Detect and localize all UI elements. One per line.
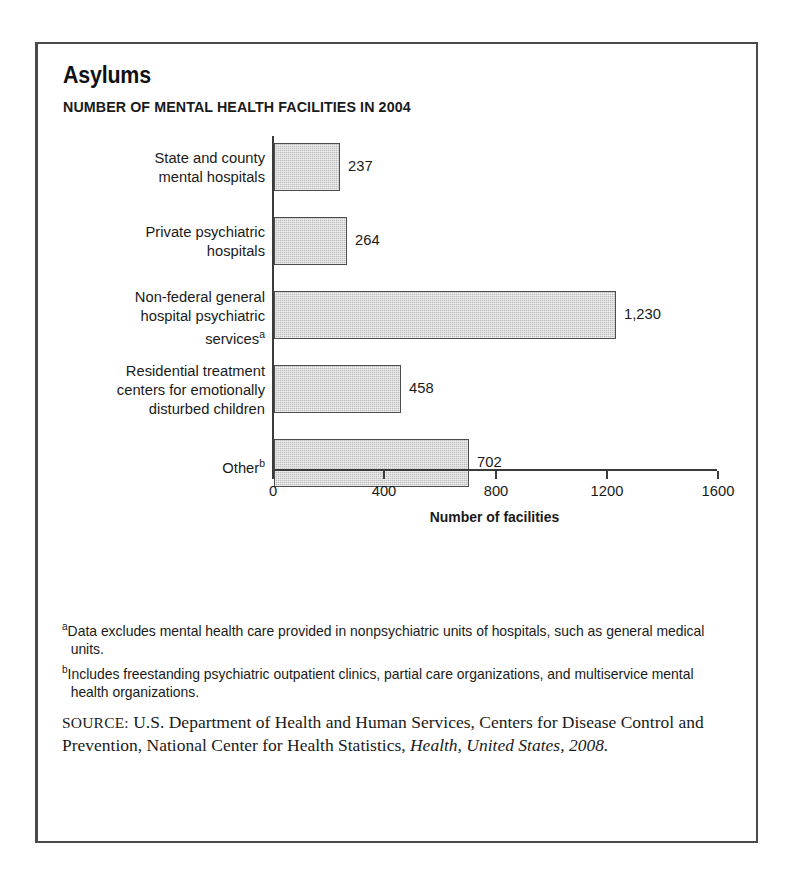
page-title: Asylums <box>63 62 687 89</box>
category-label: Non-federal generalhospital psychiatrics… <box>70 287 265 348</box>
x-axis-tick <box>606 471 608 479</box>
chart-plot: State and countymental hospitalsPrivate … <box>60 136 734 498</box>
x-axis-tick <box>717 471 719 479</box>
footnote-marker: a <box>259 328 265 340</box>
x-axis-tick <box>383 471 385 479</box>
source-note: SOURCE: U.S. Department of Health and Hu… <box>62 711 712 756</box>
x-axis-tick <box>495 471 497 479</box>
chart-subtitle: NUMBER OF MENTAL HEALTH FACILITIES IN 20… <box>63 98 680 116</box>
category-label: Residential treatmentcenters for emotion… <box>70 361 265 418</box>
x-axis-title: Number of facilities <box>288 508 702 525</box>
footnote-text: Includes freestanding psychiatric outpat… <box>68 666 694 701</box>
bar-value-label: 458 <box>409 379 434 397</box>
footnotes: aData excludes mental health care provid… <box>62 617 734 703</box>
category-label: State and countymental hospitals <box>70 148 265 186</box>
footnote: aData excludes mental health care provid… <box>62 617 707 659</box>
figure-content: Asylums NUMBER OF MENTAL HEALTH FACILITI… <box>38 44 756 841</box>
figure-frame: Asylums NUMBER OF MENTAL HEALTH FACILITI… <box>35 42 758 843</box>
x-axis-tick-label: 1600 <box>702 482 735 500</box>
category-axis-labels: State and countymental hospitalsPrivate … <box>60 136 265 498</box>
footnote-marker: b <box>259 457 265 469</box>
source-publication: Health, United States, 2008. <box>410 735 608 755</box>
source-label: SOURCE: <box>62 714 129 731</box>
x-axis-tick-label: 400 <box>372 482 397 500</box>
category-label: Private psychiatrichospitals <box>70 222 265 260</box>
footnote: bIncludes freestanding psychiatric outpa… <box>62 660 707 702</box>
bar <box>274 291 616 339</box>
x-axis-tick-label: 800 <box>483 482 508 500</box>
footnote-text: Data excludes mental health care provide… <box>68 623 705 658</box>
x-axis-tick-label: 0 <box>269 482 277 500</box>
bar <box>274 365 401 413</box>
bar-plot-area: 2372641,230458702 040080012001600 Number… <box>272 136 727 498</box>
x-axis-tick-label: 1200 <box>590 482 623 500</box>
bar-value-label: 264 <box>355 231 380 249</box>
bar <box>274 217 347 265</box>
category-label: Otherb <box>70 454 265 477</box>
bar-value-label: 237 <box>348 157 373 175</box>
x-axis-tick <box>272 471 274 479</box>
bar <box>274 143 340 191</box>
bar-value-label: 1,230 <box>624 305 661 323</box>
bar <box>274 439 469 487</box>
